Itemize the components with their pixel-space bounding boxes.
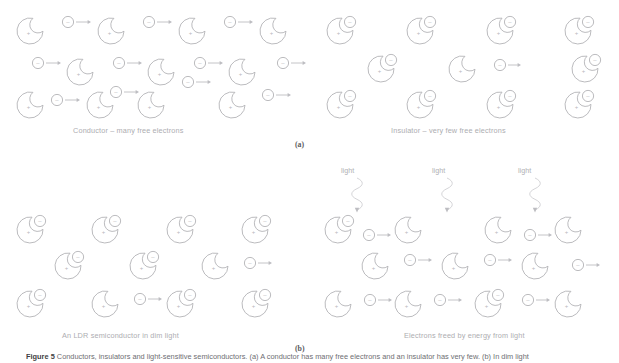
sub-label-a: (a) bbox=[295, 140, 304, 149]
free-electron: – bbox=[194, 57, 205, 68]
bound-electron: – bbox=[184, 289, 195, 300]
atom-ion-core: + bbox=[148, 59, 174, 85]
atom-ion-core: + bbox=[449, 56, 475, 82]
light-wave-path bbox=[442, 178, 453, 210]
free-electron: – bbox=[244, 257, 255, 268]
positive-sign: + bbox=[229, 104, 233, 110]
atom-ion-core: + bbox=[555, 217, 581, 243]
light-label-3: light bbox=[518, 166, 531, 175]
free-electron: – bbox=[110, 86, 121, 97]
positive-sign: + bbox=[65, 265, 69, 271]
arrow-head bbox=[220, 61, 223, 65]
free-electron: – bbox=[134, 293, 145, 304]
negative-sign: – bbox=[428, 93, 432, 99]
bound-electron: – bbox=[424, 90, 435, 101]
panel-label-conductor: Conductor – many free electrons bbox=[73, 126, 184, 135]
drift-arrow bbox=[124, 90, 139, 94]
negative-sign: – bbox=[76, 254, 80, 260]
atom-ion-core: + bbox=[362, 253, 388, 279]
negative-sign: – bbox=[348, 93, 352, 99]
positive-sign: + bbox=[582, 68, 586, 74]
drift-arrow bbox=[208, 61, 223, 65]
free-electron: – bbox=[404, 254, 415, 265]
negative-sign: – bbox=[586, 93, 590, 99]
free-electron: – bbox=[182, 76, 193, 87]
arrow-head bbox=[136, 90, 139, 94]
arrow-head bbox=[288, 93, 291, 97]
negative-sign: – bbox=[151, 254, 155, 260]
negative-sign: – bbox=[117, 60, 121, 66]
bound-electron: – bbox=[184, 215, 195, 226]
bound-electron: – bbox=[34, 289, 45, 300]
light-wave-path bbox=[530, 178, 541, 210]
negative-sign: – bbox=[576, 262, 580, 268]
positive-sign: + bbox=[565, 229, 569, 235]
negative-sign: – bbox=[496, 292, 500, 298]
negative-sign: – bbox=[438, 297, 442, 303]
positive-sign: + bbox=[140, 265, 144, 271]
negative-sign: – bbox=[263, 292, 267, 298]
atom-ion-core: + bbox=[442, 253, 468, 279]
arrow-head bbox=[58, 61, 61, 65]
atom-ion-core: + bbox=[229, 59, 255, 85]
atom-ion-core: + bbox=[67, 59, 93, 85]
positive-sign: + bbox=[148, 104, 152, 110]
panel-label-ldr-lit: Electrons freed by energy from light bbox=[404, 331, 525, 340]
bound-electron: – bbox=[589, 54, 600, 65]
arrow-head bbox=[303, 61, 306, 65]
atom-ion-core: + bbox=[202, 253, 228, 279]
positive-sign: + bbox=[77, 71, 81, 77]
negative-sign: – bbox=[38, 218, 42, 224]
bound-electron: – bbox=[385, 54, 396, 65]
positive-sign: + bbox=[102, 229, 106, 235]
glyph-layer: ++++–––+++–––––++++–––+–+–+–+–+–+–+–+–+–… bbox=[17, 16, 601, 317]
bound-electron: – bbox=[72, 251, 83, 262]
positive-sign: + bbox=[337, 104, 341, 110]
negative-sign: – bbox=[348, 19, 352, 25]
panel-label-ldr-dim: An LDR semiconductor in dim light bbox=[62, 331, 179, 340]
arrow-head bbox=[388, 233, 391, 237]
positive-sign: + bbox=[459, 68, 463, 74]
atom-ion-core: + bbox=[485, 217, 511, 243]
negative-sign: – bbox=[266, 92, 270, 98]
positive-sign: + bbox=[189, 30, 193, 36]
negative-sign: – bbox=[281, 60, 285, 66]
atom-ion-core: + bbox=[555, 291, 581, 317]
atom-ion-core: + bbox=[325, 291, 351, 317]
bound-electron: – bbox=[342, 215, 353, 226]
atom-ion-core: + bbox=[87, 92, 113, 118]
negative-sign: – bbox=[368, 297, 372, 303]
positive-sign: + bbox=[27, 303, 31, 309]
negative-sign: – bbox=[198, 60, 202, 66]
bound-electron: – bbox=[504, 16, 515, 27]
drift-arrow bbox=[46, 61, 61, 65]
positive-sign: + bbox=[252, 229, 256, 235]
free-electron: – bbox=[262, 89, 273, 100]
bound-electron: – bbox=[344, 16, 355, 27]
positive-sign: + bbox=[97, 104, 101, 110]
positive-sign: + bbox=[497, 30, 501, 36]
positive-sign: + bbox=[27, 104, 31, 110]
panel-label-insulator: Insulator – very few free electrons bbox=[391, 126, 506, 135]
arrow-head bbox=[549, 233, 552, 237]
negative-sign: – bbox=[526, 297, 530, 303]
light-arrow-head bbox=[533, 208, 537, 213]
drift-arrow bbox=[536, 298, 550, 302]
atom-ion-core: + bbox=[395, 217, 421, 243]
atom-ion-core: + bbox=[219, 92, 245, 118]
drift-arrow bbox=[538, 233, 552, 237]
drift-arrow bbox=[378, 298, 392, 302]
positive-sign: + bbox=[27, 229, 31, 235]
bound-electron: – bbox=[582, 90, 593, 101]
atom-ion-core: + bbox=[179, 18, 205, 44]
arrow-head bbox=[518, 63, 521, 67]
light-label-2: light bbox=[432, 166, 445, 175]
negative-sign: – bbox=[55, 97, 59, 103]
light-ray bbox=[352, 178, 363, 213]
negative-sign: – bbox=[248, 260, 252, 266]
negative-sign: – bbox=[114, 89, 118, 95]
positive-sign: + bbox=[177, 229, 181, 235]
positive-sign: + bbox=[270, 30, 274, 36]
free-electron: – bbox=[363, 229, 374, 240]
drift-arrow bbox=[238, 20, 253, 24]
